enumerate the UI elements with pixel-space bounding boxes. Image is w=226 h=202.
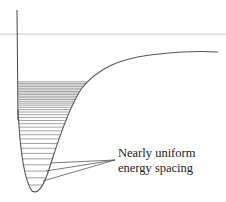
vertical-axis xyxy=(17,10,18,120)
annotation-line-1: Nearly uniform xyxy=(118,146,195,161)
annotation-label: Nearly uniform energy spacing xyxy=(118,146,195,176)
annotation-pointers xyxy=(43,160,115,181)
annotation-line-2: energy spacing xyxy=(118,161,195,176)
